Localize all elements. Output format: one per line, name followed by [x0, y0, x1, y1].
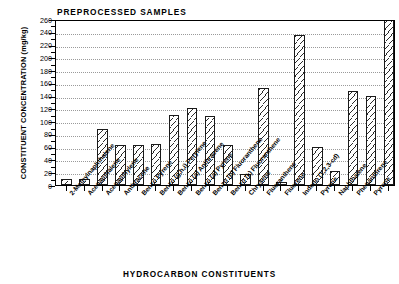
y-axis-tick-label: 60 [30, 144, 52, 151]
x-axis-labels: 2-MethylnaphthaleneAcenapthaleneAcenapth… [0, 0, 399, 98]
y-axis-minor-tick [51, 154, 55, 155]
x-axis-tick [263, 186, 264, 191]
y-axis-minor-tick [51, 167, 55, 168]
x-axis-tick [119, 186, 120, 191]
x-axis-tick [209, 186, 210, 191]
x-axis-tick [334, 186, 335, 191]
x-axis-tick [155, 186, 156, 191]
x-axis-tick [245, 186, 246, 191]
x-axis-tick [84, 186, 85, 191]
y-axis-tick-label: 20 [30, 170, 52, 177]
x-axis-tick [298, 186, 299, 191]
y-axis-tick-label: 120 [30, 106, 52, 113]
x-axis-tick [316, 186, 317, 191]
x-axis-tick [280, 186, 281, 191]
x-axis-tick [388, 186, 389, 191]
y-axis-minor-tick [51, 129, 55, 130]
x-axis-tick [102, 186, 103, 191]
gridline [56, 123, 394, 124]
y-axis-tick-label: 80 [30, 131, 52, 138]
bar [61, 179, 72, 185]
x-axis-tick [137, 186, 138, 191]
x-axis-tick [191, 186, 192, 191]
y-axis-minor-tick [51, 141, 55, 142]
y-axis-minor-tick [51, 116, 55, 117]
x-axis-title: HYDROCARBON CONSTITUENTS [0, 270, 399, 279]
x-axis-tick [66, 186, 67, 191]
x-axis-tick [173, 186, 174, 191]
y-axis-tick-label: 0 [30, 183, 52, 190]
gridline [56, 110, 394, 111]
y-axis-tick-label: 100 [30, 119, 52, 126]
y-axis-tick-label: 40 [30, 157, 52, 164]
y-axis-minor-tick [51, 103, 55, 104]
x-axis-tick [352, 186, 353, 191]
x-axis-tick [227, 186, 228, 191]
x-axis-tick [370, 186, 371, 191]
chart-root: CONSTITUENT CONCENTRATION (mg/kg) PREPRO… [0, 0, 399, 284]
y-axis-minor-tick [51, 180, 55, 181]
